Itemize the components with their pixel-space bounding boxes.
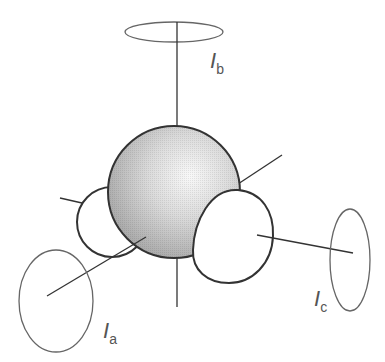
molecule-diagram: Ib Ia Ic (0, 0, 385, 362)
rotation-ellipse-c (330, 209, 370, 311)
label-ia-subscript: a (109, 331, 117, 347)
bond-stub-upper-right (238, 155, 282, 184)
label-ib: Ib (210, 50, 224, 76)
bond-stub-left (60, 198, 82, 203)
label-ib-subscript: b (216, 61, 224, 77)
label-ic: Ic (314, 288, 327, 314)
rotation-ellipse-a (19, 250, 93, 352)
label-ic-subscript: c (320, 299, 327, 315)
label-ia: Ia (103, 320, 117, 346)
diagram-drawing (0, 0, 385, 362)
axis-b (125, 22, 223, 128)
rotation-ellipse-b (125, 22, 223, 42)
